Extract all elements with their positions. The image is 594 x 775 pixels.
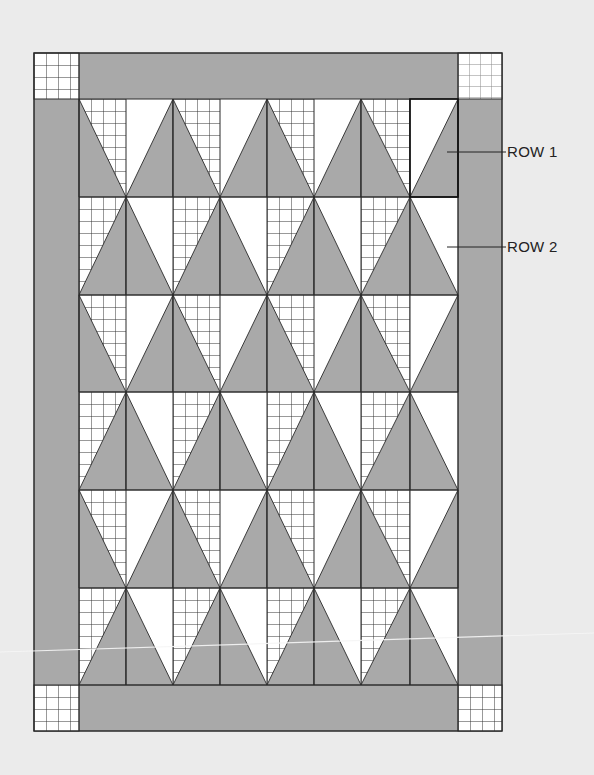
grid-fabric <box>34 53 79 99</box>
grid-fabric <box>34 685 79 731</box>
corner-block-bottom-right <box>458 685 502 731</box>
corner-block-top-right <box>458 53 502 99</box>
quilt-diagram <box>0 0 594 775</box>
grid-fabric <box>458 53 502 99</box>
grid-fabric <box>458 685 502 731</box>
corner-block-top-left <box>34 53 79 99</box>
row-2-label: ROW 2 <box>507 239 558 254</box>
row-1-label: ROW 1 <box>507 144 558 159</box>
corner-block-bottom-left <box>34 685 79 731</box>
